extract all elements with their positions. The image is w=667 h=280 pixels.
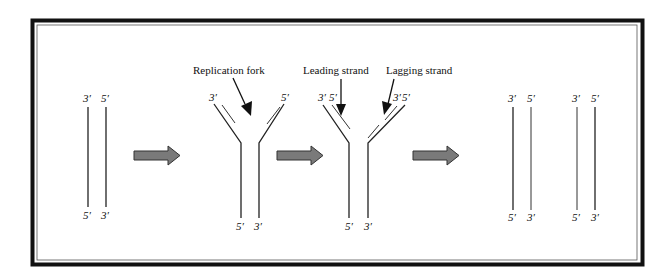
label-3prime-top: 3′ <box>507 92 517 104</box>
label-3prime-top-right: 3′ <box>392 91 402 103</box>
label-3prime-bottom: 3′ <box>253 220 263 232</box>
label-5prime-bottom: 5′ <box>345 220 354 232</box>
replication-fork-pointer <box>233 78 245 104</box>
frame-inner <box>37 25 637 260</box>
label-5prime-top-right: 5′ <box>402 91 411 103</box>
leading-lagging-stage: Leading strand Lagging strand 3′ 5′ 3′ 5… <box>303 64 453 232</box>
label-3prime-bottom: 3′ <box>526 211 536 223</box>
label-5prime-bottom: 5′ <box>572 211 581 223</box>
label-3prime-top: 3′ <box>208 91 218 103</box>
label-3prime-bottom: 3′ <box>590 211 600 223</box>
label-5prime-top: 5′ <box>591 92 600 104</box>
step-arrow-2 <box>277 146 323 165</box>
step-arrow-3 <box>413 146 459 165</box>
leading-strand-arrowhead <box>336 104 346 116</box>
label-3prime-top-left: 3′ <box>317 91 327 103</box>
lagging-fragment-2 <box>368 125 379 138</box>
leading-strand-label: Leading strand <box>303 64 369 76</box>
step-arrow-1 <box>134 146 180 165</box>
parent-duplex: 3′ 5′ 5′ 3′ <box>82 92 110 221</box>
replication-fork-stage: Replication fork 3′ 5′ 5′ 3′ <box>193 64 290 232</box>
lagging-strand-label: Lagging strand <box>386 64 453 76</box>
label-5prime-bottom: 5′ <box>236 220 245 232</box>
label-5prime-bottom: 5′ <box>508 211 517 223</box>
label-5prime-top-left: 5′ <box>329 91 338 103</box>
label-3prime-top: 3′ <box>571 92 581 104</box>
label-5prime-top: 5′ <box>281 91 290 103</box>
label-3prime-bottom: 3′ <box>100 209 110 221</box>
daughter-duplexes: 3′ 5′ 3′ 5′ 5′ 3′ 5′ 3′ <box>507 92 600 223</box>
fork1-strand-left <box>214 104 241 218</box>
fork2-strand-right <box>368 105 405 218</box>
label-3prime-top: 3′ <box>82 92 92 104</box>
frame-outer <box>33 21 643 265</box>
label-5prime-top: 5′ <box>527 92 536 104</box>
replication-diagram: 3′ 5′ 5′ 3′ Replication fork 3′ 5′ 5′ 3′… <box>0 0 667 280</box>
label-5prime-bottom: 5′ <box>83 209 92 221</box>
replication-fork-arrowhead <box>241 101 252 116</box>
fork1-strand-right <box>259 104 284 218</box>
label-3prime-bottom: 3′ <box>363 220 373 232</box>
label-5prime-top: 5′ <box>101 92 110 104</box>
fork1-new-segment-left <box>222 105 235 123</box>
replication-fork-label: Replication fork <box>193 64 265 76</box>
